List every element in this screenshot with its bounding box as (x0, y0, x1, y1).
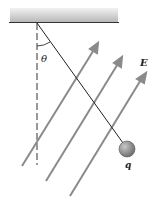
field-line-1 (22, 48, 95, 166)
angle-arc (37, 42, 50, 46)
ceiling (9, 8, 119, 23)
charged-ball (119, 141, 135, 157)
angle-label: θ (41, 53, 47, 64)
arrowhead-icon (90, 43, 98, 53)
field-lines (22, 43, 146, 196)
pendulum-diagram: θ E q (0, 0, 156, 204)
arrowhead-icon (137, 73, 146, 83)
field-line-3 (70, 78, 142, 196)
arrowhead-icon (114, 57, 122, 67)
field-label: E (139, 57, 148, 68)
charge-label: q (125, 160, 131, 170)
